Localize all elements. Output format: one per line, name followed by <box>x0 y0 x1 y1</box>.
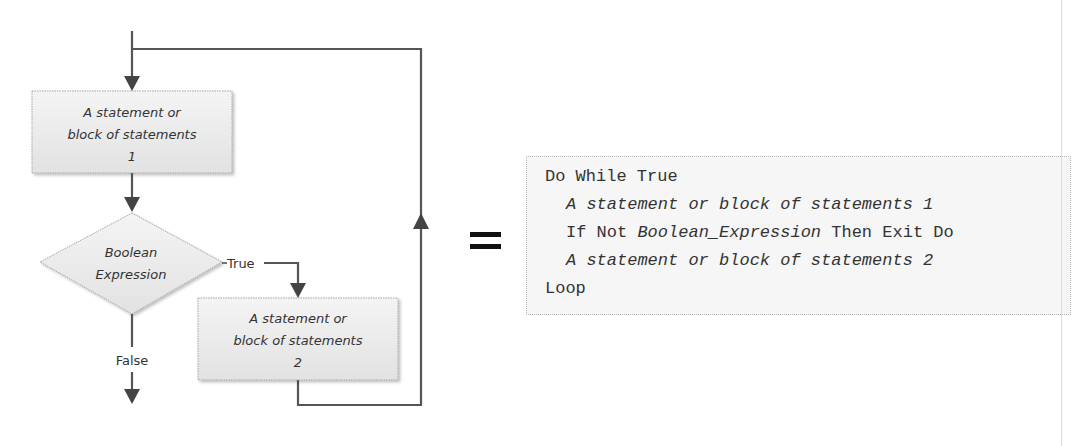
equals-bar-bottom <box>470 244 501 249</box>
entry-connector <box>124 31 140 91</box>
arrow-down-icon <box>124 389 140 404</box>
code-line-5: Loop <box>545 275 1070 303</box>
true-branch-connector: True <box>222 256 306 298</box>
equals-sign <box>470 232 501 250</box>
arrow-down-icon <box>290 283 306 298</box>
page-edge-divider <box>1061 0 1062 446</box>
false-branch-connector: False <box>116 314 149 404</box>
box1-line3: 1 <box>128 149 136 164</box>
box1-to-decision-connector <box>124 173 140 212</box>
code-line-2: A statement or block of statements 1 <box>545 191 1070 219</box>
decision-diamond: Boolean Expression <box>40 213 222 314</box>
code-then-exit-do: Then Exit Do <box>821 223 954 242</box>
false-label: False <box>116 353 149 368</box>
code-line-4: A statement or block of statements 2 <box>545 247 1070 275</box>
code-statement-1: A statement or block of statements 1 <box>566 195 933 214</box>
box2-line2: block of statements <box>234 333 363 348</box>
box1-line2: block of statements <box>68 127 197 142</box>
box2-line3: 2 <box>294 355 302 370</box>
code-line-1: Do While True <box>545 163 1070 191</box>
equals-bar-top <box>470 232 501 237</box>
arrow-down-icon <box>124 197 140 212</box>
true-label: True <box>226 256 255 271</box>
code-line-3: If Not Boolean_Expression Then Exit Do <box>545 219 1070 247</box>
code-statement-2: A statement or block of statements 2 <box>566 251 933 270</box>
code-if-not: If Not <box>566 223 637 242</box>
arrow-down-icon <box>124 76 140 91</box>
code-block: Do While True A statement or block of st… <box>526 156 1071 315</box>
code-keyword-do-while: Do While True <box>545 167 678 186</box>
statement-block-2: A statement or block of statements 2 <box>198 298 398 380</box>
statement-block-1: A statement or block of statements 1 <box>32 91 232 173</box>
code-keyword-loop: Loop <box>545 279 586 298</box>
box1-line1: A statement or <box>82 105 182 120</box>
decision-line1: Boolean <box>105 245 158 260</box>
box2-line1: A statement or <box>248 311 348 326</box>
arrow-up-icon <box>413 213 429 229</box>
code-boolean-expression: Boolean_Expression <box>637 223 821 242</box>
decision-line2: Expression <box>96 267 167 282</box>
